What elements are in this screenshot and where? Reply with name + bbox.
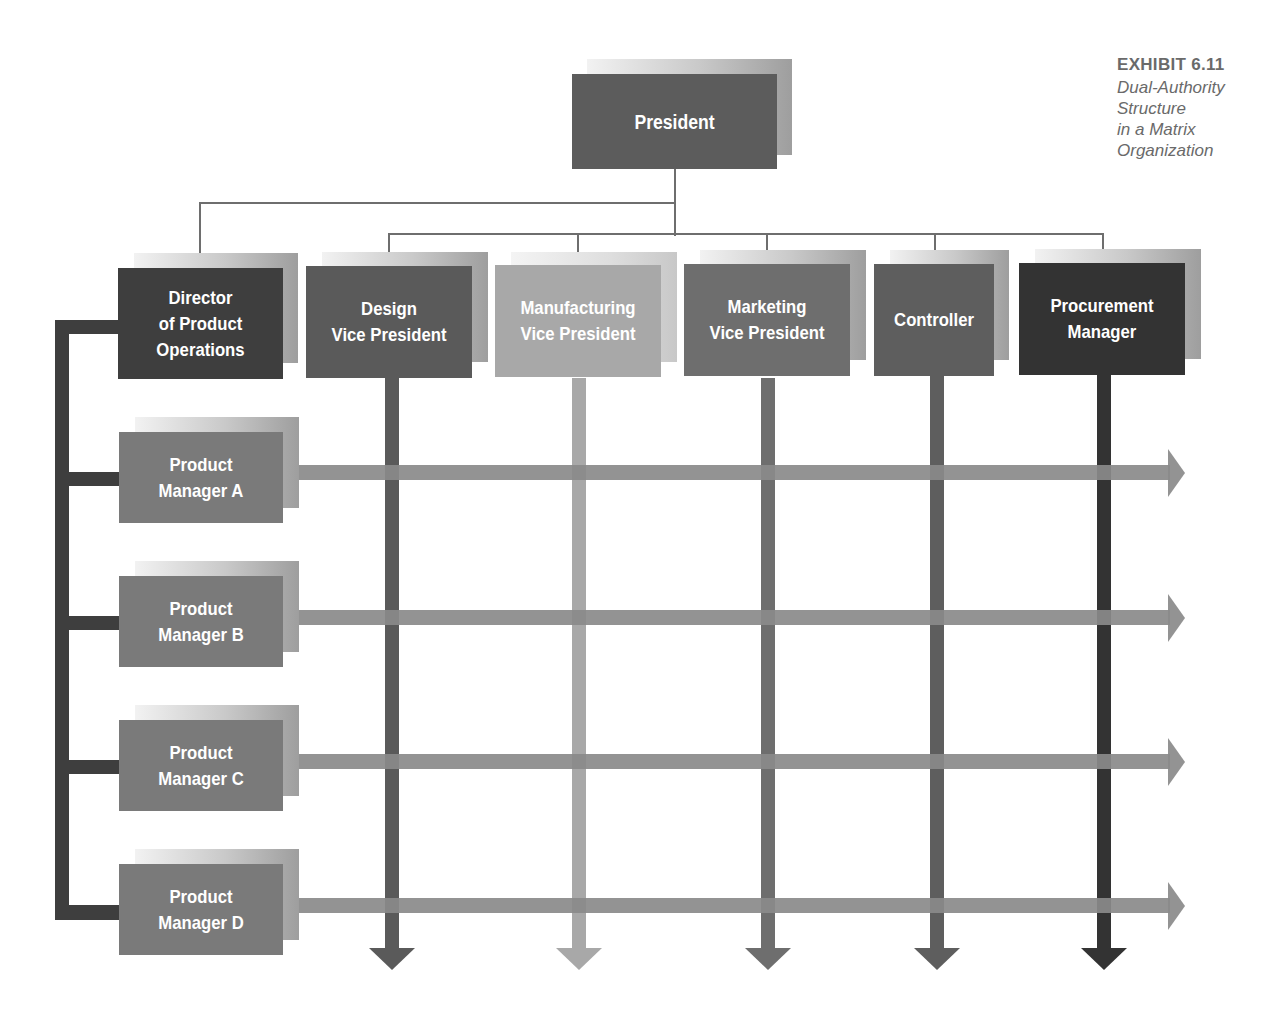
- product-manager-c-label: Product Manager C: [129, 720, 273, 811]
- product-manager-a-label: Product Manager A: [129, 432, 273, 523]
- product-manager-b-box[interactable]: Product Manager B: [119, 576, 283, 667]
- procurement-box[interactable]: Procurement Manager: [1019, 263, 1185, 375]
- controller-box[interactable]: Controller: [874, 264, 994, 376]
- product-manager-a-box[interactable]: Product Manager A: [119, 432, 283, 523]
- manufacturing-vp-box[interactable]: Manufacturing Vice President: [495, 265, 661, 377]
- horizontal-arrow-c: [282, 738, 1185, 786]
- left-bracket: [55, 320, 120, 920]
- product-manager-c-box[interactable]: Product Manager C: [119, 720, 283, 811]
- director-box[interactable]: Director of Product Operations: [118, 268, 283, 379]
- marketing-vp-label: Marketing Vice President: [694, 264, 840, 376]
- horizontal-arrow-b: [282, 594, 1185, 642]
- procurement-label: Procurement Manager: [1029, 263, 1175, 375]
- product-manager-b-label: Product Manager B: [129, 576, 273, 667]
- product-manager-d-label: Product Manager D: [129, 864, 273, 955]
- director-label: Director of Product Operations: [128, 268, 273, 379]
- horizontal-arrow-d: [282, 882, 1185, 930]
- controller-label: Controller: [881, 264, 987, 376]
- design-vp-box[interactable]: Design Vice President: [306, 266, 472, 378]
- vertical-arrow-procurement: [1081, 374, 1127, 970]
- president-label: President: [584, 74, 764, 169]
- marketing-vp-box[interactable]: Marketing Vice President: [684, 264, 850, 376]
- product-manager-d-box[interactable]: Product Manager D: [119, 864, 283, 955]
- design-vp-label: Design Vice President: [316, 266, 462, 378]
- horizontal-arrow-a: [282, 449, 1185, 497]
- manufacturing-vp-label: Manufacturing Vice President: [505, 265, 651, 377]
- president-box[interactable]: President: [572, 74, 777, 169]
